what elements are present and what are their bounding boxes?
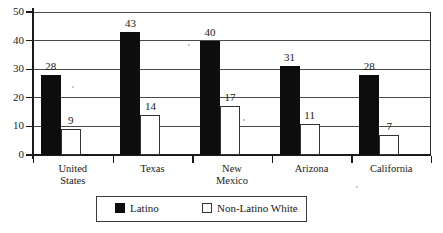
scan-speck (356, 186, 358, 188)
bar-chart: 01020304050 289431440173111287 United St… (0, 0, 443, 233)
bar-value-label: 40 (194, 27, 226, 38)
scan-speck (72, 86, 74, 88)
y-axis-tick-label: 10 (2, 120, 24, 131)
bar-latino-texas (120, 32, 140, 155)
bar-non-latino-white-texas (140, 115, 160, 155)
bar-value-label: 43 (114, 18, 146, 29)
legend: Latino Non-Latino White (96, 196, 307, 222)
y-axis-tick-label: 20 (2, 92, 24, 103)
bar-value-label: 14 (134, 101, 166, 112)
x-axis-separator (431, 156, 432, 163)
y-axis-tick-label: 40 (2, 35, 24, 46)
x-axis-category-label: California (351, 163, 431, 175)
bar-non-latino-white-united-states (61, 129, 81, 155)
bar-value-label: 7 (373, 121, 405, 132)
x-axis-separator (351, 156, 352, 163)
x-axis-category-label: New Mexico (192, 163, 272, 187)
x-axis-category-label: Arizona (272, 163, 352, 175)
legend-swatch-filled-icon (115, 203, 125, 213)
y-axis-tick-label: 30 (2, 63, 24, 74)
bar-non-latino-white-arizona (300, 124, 320, 155)
bar-value-label: 28 (35, 61, 67, 72)
bar-value-label: 28 (353, 61, 385, 72)
legend-swatch-open-icon (202, 203, 212, 213)
legend-label-non-latino-white: Non-Latino White (217, 202, 298, 214)
x-axis-separator (33, 156, 34, 163)
x-axis-separator (192, 156, 193, 163)
bar-value-label: 9 (55, 115, 87, 126)
legend-item-non-latino-white: Non-Latino White (202, 202, 298, 214)
scan-speck (188, 44, 190, 46)
y-axis-tick-label: 50 (2, 6, 24, 17)
x-axis-separator (113, 156, 114, 163)
bar-value-label: 31 (274, 52, 306, 63)
legend-label-latino: Latino (130, 202, 159, 214)
x-axis-category-label: United States (33, 163, 113, 187)
bar-value-label: 17 (214, 92, 246, 103)
y-axis-tick-label: 0 (2, 149, 24, 160)
bar-non-latino-white-california (379, 135, 399, 155)
plot-area: 289431440173111287 (33, 12, 431, 155)
scan-speck (243, 119, 245, 121)
bar-latino-california (359, 75, 379, 155)
legend-item-latino: Latino (115, 202, 159, 214)
x-axis-separator (272, 156, 273, 163)
x-axis-category-label: Texas (113, 163, 193, 175)
bar-value-label: 11 (294, 110, 326, 121)
bar-non-latino-white-new-mexico (220, 106, 240, 155)
